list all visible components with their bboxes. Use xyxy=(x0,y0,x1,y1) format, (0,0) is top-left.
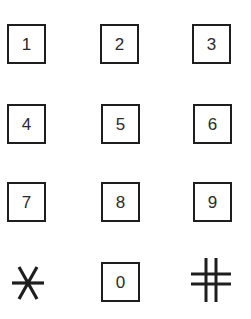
hash-icon xyxy=(190,256,232,304)
key-hash[interactable] xyxy=(190,256,232,304)
key-2[interactable]: 2 xyxy=(100,24,139,64)
key-label: 6 xyxy=(208,116,217,133)
key-8[interactable]: 8 xyxy=(101,182,140,222)
key-label: 8 xyxy=(116,194,125,211)
key-label: 7 xyxy=(22,194,31,211)
key-label: 9 xyxy=(208,194,217,211)
key-label: 5 xyxy=(116,116,125,133)
key-6[interactable]: 6 xyxy=(193,104,232,144)
key-3[interactable]: 3 xyxy=(192,24,231,64)
key-5[interactable]: 5 xyxy=(101,104,140,144)
key-label: 3 xyxy=(207,36,216,53)
key-label: 4 xyxy=(22,116,31,133)
key-9[interactable]: 9 xyxy=(193,182,232,222)
key-label: 1 xyxy=(22,36,31,53)
key-label: 0 xyxy=(116,274,125,291)
key-label: 2 xyxy=(115,36,124,53)
key-4[interactable]: 4 xyxy=(7,104,46,144)
key-7[interactable]: 7 xyxy=(7,182,46,222)
star-icon xyxy=(10,264,46,302)
key-0[interactable]: 0 xyxy=(101,262,140,302)
key-1[interactable]: 1 xyxy=(7,24,46,64)
key-star[interactable] xyxy=(10,264,46,302)
